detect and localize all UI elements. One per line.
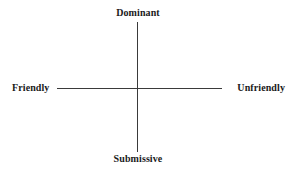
axis-label-submissive: Submissive: [0, 153, 276, 165]
vertical-axis-line: [137, 22, 138, 152]
circumplex-diagram: Dominant Friendly Unfriendly Submissive: [0, 0, 296, 173]
horizontal-axis-line: [57, 88, 222, 89]
axis-label-friendly: Friendly: [12, 82, 49, 94]
axis-label-unfriendly: Unfriendly: [237, 82, 285, 94]
axis-label-dominant: Dominant: [0, 7, 276, 19]
